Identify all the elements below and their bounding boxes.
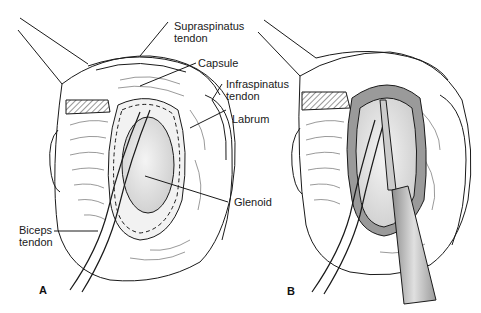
label-biceps-tendon: Biceps tendon [19,224,53,248]
panel-letter-b: B [287,285,295,297]
label-infraspinatus-tendon: Infraspinatus tendon [226,78,289,102]
label-labrum: Labrum [232,113,269,125]
label-glenoid: Glenoid [234,196,272,208]
shoulder-anatomy-illustration [0,0,481,313]
panel-b-drawing [258,20,471,304]
panel-letter-a: A [39,284,47,296]
label-capsule: Capsule [198,57,238,69]
label-supraspinatus-tendon: Supraspinatus tendon [174,20,244,44]
